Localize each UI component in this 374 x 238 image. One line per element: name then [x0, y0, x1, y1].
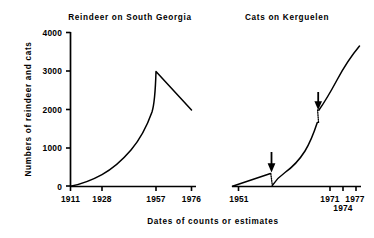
- y-tick-label-0: 0: [57, 182, 62, 192]
- arrow-head: [314, 101, 322, 110]
- y-tick-label-4000: 4000: [43, 28, 63, 38]
- right-panel-axes: [232, 187, 361, 192]
- figure-root: Reindeer on South Georgia Cats on Kergue…: [0, 0, 374, 238]
- cats-crash1-dotted-drop: [271, 174, 273, 186]
- right-panel-title: Cats on Kerguelen: [245, 13, 329, 22]
- arrow-head: [268, 163, 276, 172]
- y-tick-label-1000: 1000: [43, 143, 63, 153]
- left-panel-title: Reindeer on South Georgia: [68, 13, 192, 22]
- left-panel-axes: [66, 32, 196, 191]
- x-tick-label-1974: 1974: [333, 203, 353, 213]
- cats-curve-segment-post-crash1: [272, 123, 317, 186]
- cats-curve-segment-post-crash2: [319, 46, 360, 110]
- y-tick-label-2000: 2000: [43, 105, 63, 115]
- reindeer-population-curve: [71, 72, 192, 187]
- y-tick-label-3000: 3000: [43, 66, 63, 76]
- right-panel-series-cats: [233, 46, 360, 186]
- y-axis-title: Numbers of reindeer and cats: [24, 41, 33, 176]
- x-tick-label-1957: 1957: [146, 194, 166, 204]
- x-axis-title: Dates of counts or estimates: [147, 217, 279, 226]
- x-tick-label-1928: 1928: [92, 194, 112, 204]
- annotation-arrow-first-crash: [268, 152, 276, 173]
- cats-curve-segment-pre-crash1: [233, 174, 271, 187]
- x-tick-label-1976: 1976: [182, 194, 202, 204]
- cats-crash2-dotted-drop: [318, 110, 319, 123]
- left-panel-series-reindeer: [71, 72, 192, 187]
- x-tick-label-1951: 1951: [229, 194, 249, 204]
- x-tick-label-1911: 1911: [61, 194, 80, 204]
- chart-canvas: Reindeer on South Georgia Cats on Kergue…: [0, 0, 374, 238]
